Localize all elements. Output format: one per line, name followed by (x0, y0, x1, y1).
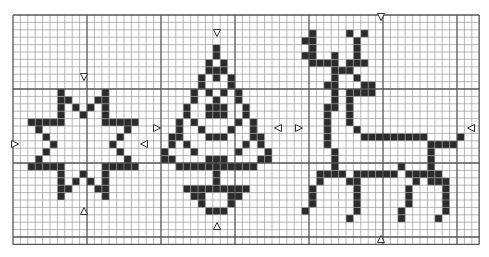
stitch-cell (265, 148, 272, 155)
stitch-cell (43, 133, 50, 140)
stitch-cell (413, 178, 420, 185)
stitch-cell (57, 96, 64, 103)
deer-right-triangle-icon (468, 125, 475, 132)
stitch-cell (331, 148, 338, 155)
stitch-cell (442, 207, 449, 214)
stitch-cell (183, 185, 190, 192)
stitch-cell (405, 185, 412, 192)
stitch-cell (353, 170, 360, 177)
stitch-cell (213, 163, 220, 170)
stitch-cell (235, 163, 242, 170)
stitch-cell (220, 133, 227, 140)
stitch-cell (346, 104, 353, 111)
stitch-cell (427, 148, 434, 155)
stitch-cell (213, 96, 220, 103)
stitch-cell (213, 74, 220, 81)
stitch-cell (309, 30, 316, 37)
stitch-cell (57, 170, 64, 177)
stitch-cell (398, 215, 405, 222)
stitch-cell (228, 74, 235, 81)
stitch-cell (191, 89, 198, 96)
stitch-cell (324, 119, 331, 126)
stitch-cell (302, 207, 309, 214)
stitch-cell (339, 67, 346, 74)
stitch-cell (457, 133, 464, 140)
stitch-cell (353, 59, 360, 66)
stitch-cell (368, 89, 375, 96)
stitch-cell (309, 193, 316, 200)
stitch-cell (427, 163, 434, 170)
stitch-cell (324, 126, 331, 133)
stitch-cell (213, 104, 220, 111)
stitch-cell (257, 133, 264, 140)
star-motif (28, 89, 139, 200)
stitch-cell (353, 178, 360, 185)
stitch-cell (361, 89, 368, 96)
stitch-cell (331, 52, 338, 59)
stitch-cell (353, 200, 360, 207)
stitch-cell (257, 141, 264, 148)
stitch-cell (250, 133, 257, 140)
stitch-cell (242, 111, 249, 118)
stitch-cell (353, 37, 360, 44)
stitch-cell (324, 104, 331, 111)
stitch-cell (228, 126, 235, 133)
stitch-cell (102, 178, 109, 185)
stitch-cell (361, 82, 368, 89)
stitch-cell (265, 156, 272, 163)
stitch-cell (198, 200, 205, 207)
stitch-cell (191, 119, 198, 126)
stitch-cell (94, 96, 101, 103)
stitch-cell (57, 111, 64, 118)
stitch-cell (102, 111, 109, 118)
stitch-cell (435, 141, 442, 148)
stitch-cell (235, 185, 242, 192)
stitch-cell (57, 163, 64, 170)
stitch-cell (250, 126, 257, 133)
stitch-cell (228, 82, 235, 89)
stitch-cell (213, 207, 220, 214)
stitch-cell (235, 96, 242, 103)
stitch-cell (220, 111, 227, 118)
stitch-cell (191, 148, 198, 155)
tree-top-triangle-icon (214, 30, 221, 37)
stitch-cell (220, 59, 227, 66)
stitch-cell (309, 37, 316, 44)
stitch-cell (205, 185, 212, 192)
stitch-cell (353, 89, 360, 96)
stitch-cell (176, 126, 183, 133)
stitch-cell (353, 207, 360, 214)
stitch-cell (324, 82, 331, 89)
stitch-cell (361, 59, 368, 66)
stitch-cell (57, 178, 64, 185)
stitch-cell (50, 119, 57, 126)
stitch-cell (331, 67, 338, 74)
stitch-cell (220, 207, 227, 214)
stitch-cell (316, 59, 323, 66)
stitch-cell (442, 200, 449, 207)
stitch-cell (50, 141, 57, 148)
stitch-cell (50, 163, 57, 170)
stitch-cell (353, 193, 360, 200)
stitch-cell (161, 156, 168, 163)
stitch-cell (302, 52, 309, 59)
tree-bottom-triangle-icon (214, 223, 221, 230)
stitch-cell (427, 178, 434, 185)
cross-stitch-chart (0, 0, 489, 257)
stitch-cell (102, 185, 109, 192)
stitch-cell (346, 215, 353, 222)
stitch-cell (427, 156, 434, 163)
stitch-cell (198, 193, 205, 200)
stitch-cell (205, 89, 212, 96)
stitch-cell (198, 126, 205, 133)
stitch-cell (161, 148, 168, 155)
stitch-cell (316, 178, 323, 185)
stitch-cell (324, 133, 331, 140)
stitch-cell (87, 178, 94, 185)
tree-left-triangle-icon (154, 125, 161, 132)
christmas-tree-motif (161, 45, 272, 215)
stitch-cell (213, 133, 220, 140)
stitch-cell (346, 67, 353, 74)
stitch-cell (353, 126, 360, 133)
stitch-cell (57, 89, 64, 96)
